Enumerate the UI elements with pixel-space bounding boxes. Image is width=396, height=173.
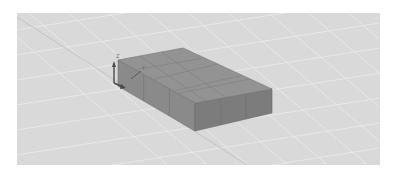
box-model[interactable]	[118, 48, 272, 131]
z-arrow-icon	[112, 61, 116, 67]
scene-canvas[interactable]: Z Y	[17, 13, 380, 165]
z-axis-label: Z	[116, 53, 120, 59]
3d-viewport[interactable]: Z Y	[17, 13, 380, 165]
